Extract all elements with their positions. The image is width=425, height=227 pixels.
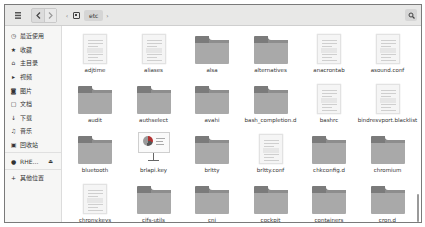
sidebar-item-label: 最近使用 [20, 31, 44, 40]
text-file-icon [259, 134, 283, 164]
file-item[interactable]: bashrc [300, 78, 358, 128]
sidebar-item-label: 图片 [20, 86, 32, 95]
pictures-icon: ◙ [9, 87, 18, 94]
folder-icon [254, 86, 288, 114]
file-name: bindresvport.blacklist [358, 117, 417, 123]
file-name: anacrontab [313, 67, 344, 73]
sidebar-item-trash[interactable]: ▣回收站 [5, 138, 61, 152]
sidebar-item-label: 文档 [20, 99, 32, 108]
file-item[interactable]: chrony.keys [66, 178, 124, 223]
menu-button[interactable] [11, 9, 25, 22]
forward-arrow-icon [48, 12, 53, 19]
folder-icon [78, 136, 112, 164]
folder-icon [371, 186, 405, 214]
sidebar-item-recent[interactable]: ◷最近使用 [5, 29, 61, 43]
recent-icon: ◷ [9, 32, 18, 39]
menu-icon [15, 12, 21, 19]
folder-icon [254, 186, 288, 214]
file-name: brltty.conf [257, 167, 285, 173]
breadcrumb-left-arrow[interactable]: ‹ [63, 12, 71, 19]
file-name: alternatives [254, 67, 287, 73]
folder-icon [195, 36, 229, 64]
file-item[interactable]: chkconfig.d [300, 128, 358, 178]
file-name: chromium [374, 167, 402, 173]
search-icon [408, 12, 415, 19]
file-item[interactable]: adjtime [66, 28, 124, 78]
back-button[interactable] [32, 9, 44, 22]
sidebar-item-star[interactable]: ★收藏 [5, 43, 61, 57]
file-name: chrony.keys [79, 217, 111, 223]
file-name: audit [88, 117, 102, 123]
sidebar-item-device[interactable]: ●RHE…⏏ [5, 154, 61, 168]
sidebar-item-label: 收藏 [20, 45, 32, 54]
scrollbar[interactable] [417, 194, 419, 222]
sidebar-item-video[interactable]: ▸视频 [5, 70, 61, 84]
breadcrumb-right-arrow[interactable]: › [103, 12, 111, 19]
sidebar-item-home[interactable]: ⌂主目录 [5, 56, 61, 70]
sidebar-item-label: 其他位置 [20, 173, 44, 182]
breadcrumb-root[interactable] [71, 10, 81, 20]
file-name: brltty [205, 167, 220, 173]
text-file-icon [317, 84, 341, 114]
folder-icon [312, 136, 346, 164]
file-item[interactable]: cni [183, 178, 241, 223]
file-item[interactable]: bluetooth [66, 128, 124, 178]
file-item[interactable]: audit [66, 78, 124, 128]
file-name: authselect [139, 117, 168, 123]
file-item[interactable]: alsa [183, 28, 241, 78]
sidebar-item-label: RHE… [20, 158, 38, 165]
presentation-file-icon [137, 132, 171, 164]
sidebar-item-documents[interactable]: ▢文档 [5, 97, 61, 111]
home-icon: ⌂ [9, 59, 18, 66]
search-button[interactable] [405, 9, 417, 21]
file-item[interactable]: cron.d [359, 178, 417, 223]
file-name: containers [315, 217, 344, 223]
sidebar-item-label: 主目录 [20, 58, 38, 67]
file-manager-window: ‹ etc › ◷最近使用★收藏⌂主目录▸视频◙图片▢文档↓下载♫音乐▣回收站●… [4, 4, 422, 223]
file-item[interactable]: chromium [359, 128, 417, 178]
file-item[interactable]: cockpit [242, 178, 300, 223]
sidebar-item-label: 视频 [20, 72, 32, 81]
file-item[interactable]: bindresvport.blacklist [359, 78, 417, 128]
file-name: cni [208, 217, 216, 223]
disk-icon: ● [9, 158, 18, 165]
file-name: bash_completion.d [245, 117, 297, 123]
sidebar-item-label: 音乐 [20, 126, 32, 135]
folder-icon [137, 186, 171, 214]
folder-icon [195, 186, 229, 214]
text-file-icon [142, 34, 166, 64]
file-name: cockpit [261, 217, 281, 223]
file-item[interactable]: containers [300, 178, 358, 223]
file-item[interactable]: authselect [125, 78, 183, 128]
plus-icon: + [9, 174, 18, 181]
documents-icon: ▢ [9, 100, 18, 107]
eject-icon[interactable]: ⏏ [48, 158, 53, 164]
file-item[interactable]: alternatives [242, 28, 300, 78]
file-item[interactable]: avahi [183, 78, 241, 128]
folder-icon [254, 36, 288, 64]
file-item[interactable]: cifs-utils [125, 178, 183, 223]
file-name: bashrc [320, 117, 338, 123]
file-name: adjtime [85, 67, 106, 73]
file-item[interactable]: bash_completion.d [242, 78, 300, 128]
folder-icon [312, 186, 346, 214]
sidebar-item-other-locations[interactable]: +其他位置 [5, 171, 61, 185]
sidebar-item-pictures[interactable]: ◙图片 [5, 83, 61, 97]
text-file-icon [317, 34, 341, 64]
file-item[interactable]: anacrontab [300, 28, 358, 78]
file-item[interactable]: brltty.conf [242, 128, 300, 178]
file-item[interactable]: brlapi.key [125, 128, 183, 178]
sidebar: ◷最近使用★收藏⌂主目录▸视频◙图片▢文档↓下载♫音乐▣回收站●RHE…⏏+其他… [5, 26, 62, 222]
sidebar-item-label: 下载 [20, 113, 32, 122]
file-item[interactable]: aliases [125, 28, 183, 78]
video-icon: ▸ [9, 73, 18, 80]
sidebar-item-music[interactable]: ♫音乐 [5, 124, 61, 138]
folder-icon [195, 136, 229, 164]
file-item[interactable]: asound.conf [359, 28, 417, 78]
drive-icon [73, 12, 80, 19]
navigation-buttons [31, 8, 57, 23]
sidebar-item-download[interactable]: ↓下载 [5, 111, 61, 125]
file-item[interactable]: brltty [183, 128, 241, 178]
forward-button[interactable] [44, 9, 56, 22]
breadcrumb-current[interactable]: etc [84, 10, 103, 21]
